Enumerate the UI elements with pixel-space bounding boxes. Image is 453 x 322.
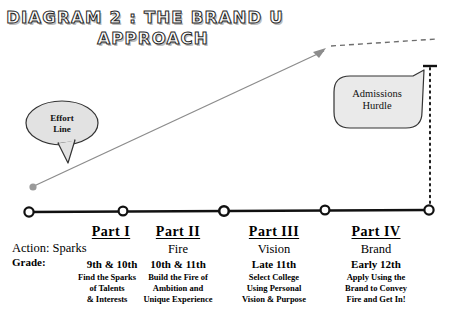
part-4-detail-line-3: Fire and Get In! bbox=[330, 294, 422, 305]
part-3-heading: Part III bbox=[226, 224, 322, 240]
part-4-grade: Early 12th bbox=[330, 257, 422, 271]
timeline-group bbox=[24, 205, 433, 216]
part-column-3: Part III Vision Late 11th Select College… bbox=[226, 224, 322, 305]
part-3-detail-line-1: Select College bbox=[226, 272, 322, 283]
diagram-title-line-1: DIAGRAM 2 : THE BRAND U bbox=[0, 7, 290, 28]
part-2-detail-line-2: Ambition and bbox=[130, 283, 226, 294]
admissions-hurdle-callout-label: Admissions Hurdle bbox=[338, 88, 416, 113]
effort-callout-label: Effort Line bbox=[34, 113, 90, 134]
part-4-detail-line-2: Brand to Convey bbox=[330, 283, 422, 294]
timeline-node-4[interactable] bbox=[321, 206, 330, 215]
part-3-detail-line-3: Vision & Purpose bbox=[226, 294, 322, 305]
part-2-detail-line-3: Unique Experience bbox=[130, 294, 226, 305]
part-4-stage: Brand bbox=[330, 242, 422, 257]
effort-line-arrowhead bbox=[313, 48, 326, 58]
part-column-4: Part IV Brand Early 12th Apply Using the… bbox=[330, 224, 422, 305]
part-4-detail: Apply Using the Brand to Convey Fire and… bbox=[330, 272, 422, 305]
part-column-2: Part II Fire 10th & 11th Build the Fire … bbox=[130, 224, 226, 305]
diagram-title: DIAGRAM 2 : THE BRAND U APPROACH bbox=[0, 7, 290, 49]
diagram-title-line-2: APPROACH bbox=[0, 28, 290, 49]
part-4-detail-line-1: Apply Using the bbox=[330, 272, 422, 283]
part-1-detail: Find the Sparks of Talents & Interests bbox=[40, 272, 140, 305]
effort-line-projection-dashed bbox=[331, 39, 437, 46]
part-3-stage: Vision bbox=[226, 242, 322, 257]
part-1-heading: Part I bbox=[40, 224, 140, 240]
timeline-node-2[interactable] bbox=[119, 207, 128, 216]
effort-line-start-dot bbox=[29, 183, 36, 190]
effort-callout-tail bbox=[58, 140, 75, 163]
timeline-node-3[interactable] bbox=[219, 206, 229, 216]
part-3-detail-line-2: Using Personal bbox=[226, 283, 322, 294]
hurdle-callout-label-line-1: Admissions bbox=[338, 88, 416, 100]
part-3-grade: Late 11th bbox=[226, 257, 322, 271]
effort-callout-label-line-2: Line bbox=[34, 124, 90, 135]
hurdle-callout-label-line-2: Hurdle bbox=[338, 100, 416, 112]
timeline-node-5[interactable] bbox=[424, 205, 433, 214]
part-2-heading: Part II bbox=[130, 224, 226, 240]
diagram-canvas: DIAGRAM 2 : THE BRAND U APPROACH Effort … bbox=[0, 0, 453, 322]
part-2-detail: Build the Fire of Ambition and Unique Ex… bbox=[130, 272, 226, 305]
part-1-grade: 9th & 10th bbox=[40, 257, 140, 271]
part-2-stage: Fire bbox=[130, 242, 226, 257]
effort-callout-label-line-1: Effort bbox=[34, 113, 90, 124]
timeline-node-1[interactable] bbox=[24, 207, 33, 216]
part-2-grade: 10th & 11th bbox=[130, 257, 226, 271]
part-2-detail-line-1: Build the Fire of bbox=[130, 272, 226, 283]
part-column-1: Part I Sparks 9th & 10th Find the Sparks… bbox=[40, 224, 140, 305]
part-3-detail: Select College Using Personal Vision & P… bbox=[226, 272, 322, 305]
admissions-hurdle-line-group bbox=[423, 66, 437, 209]
part-4-heading: Part IV bbox=[330, 224, 422, 240]
